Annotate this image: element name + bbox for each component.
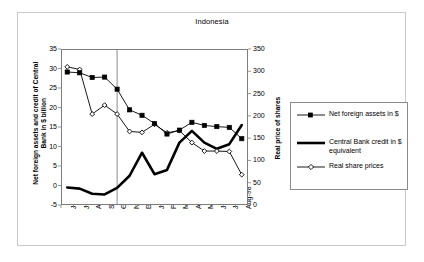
legend-entry-label: Net foreign assets in $ <box>329 110 405 119</box>
legend-entry-label: Central Bank credit in $ equivalent <box>329 138 405 155</box>
legend-entry-label: Real share prices <box>329 162 405 171</box>
chart-legend: Net foreign assets in $Central Bank cred… <box>290 102 408 190</box>
chart-figure: Indonesia Net foreign assets and credit … <box>0 0 424 262</box>
